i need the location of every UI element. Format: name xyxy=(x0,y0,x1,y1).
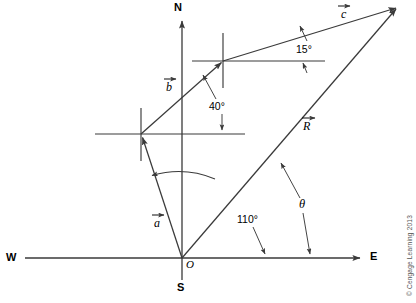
compass-axes xyxy=(25,21,360,280)
vector-a-label: a xyxy=(154,217,160,229)
vector-R-label: R xyxy=(303,120,310,132)
reference-crosshairs xyxy=(95,33,325,161)
angle-110-label: 110° xyxy=(237,214,258,225)
angle-15-label: 15° xyxy=(296,44,312,55)
angle-110-arc xyxy=(152,172,215,179)
angle-theta-label: θ xyxy=(299,198,305,211)
compass-label-west: W xyxy=(6,252,16,263)
angle-15-leader-upper xyxy=(300,26,307,41)
diagram-canvas xyxy=(0,0,416,303)
angle-40-leader-upper xyxy=(203,75,216,99)
vector-chain xyxy=(141,8,396,258)
vector-c-label: c xyxy=(341,8,346,20)
vector-a-line xyxy=(143,138,183,259)
vector-diagram-figure: N S W E O a b c R 110° 40° 15° θ © Cenga… xyxy=(0,0,416,303)
compass-label-east: E xyxy=(370,251,377,262)
compass-label-south: S xyxy=(177,282,184,293)
angle-theta-leader-lower xyxy=(303,213,310,254)
compass-label-north: N xyxy=(174,2,182,13)
angle-110-arc-path xyxy=(152,172,215,179)
vector-b-line xyxy=(141,63,222,135)
angle-110-leader xyxy=(253,227,265,254)
origin-label: O xyxy=(186,259,194,270)
angle-40-label: 40° xyxy=(209,101,225,112)
vector-b-label: b xyxy=(166,81,172,93)
copyright-credit: © Cengage Learning 2013 xyxy=(406,215,413,296)
angle-theta-leader-upper xyxy=(281,163,300,198)
angle-15-leader-lower xyxy=(303,63,307,73)
